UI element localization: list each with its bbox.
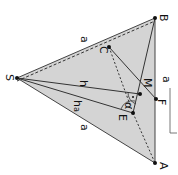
label-ha-subscript: a [72, 107, 81, 112]
label-M: M [141, 78, 154, 88]
angle-alpha-label: α [122, 102, 135, 109]
right-angle-dot [132, 96, 134, 98]
label-ha: h [71, 100, 84, 107]
label-edge-SB: a [78, 36, 91, 43]
label-E: E [116, 114, 129, 121]
pyramid-diagram: α S B A C M F E a a a h h a a [0, 0, 178, 175]
label-B: B [157, 14, 170, 22]
label-edge-SA: a [78, 124, 91, 131]
vertex-B [153, 16, 157, 20]
point-E [131, 111, 135, 115]
label-S: S [3, 74, 16, 81]
label-F: F [155, 99, 168, 105]
label-edge-BA: a [160, 76, 173, 83]
vertex-A [153, 161, 157, 165]
label-h: h [77, 80, 90, 87]
label-C: C [97, 46, 110, 54]
point-M [138, 92, 142, 96]
label-A: A [157, 162, 170, 170]
scale-bar [170, 88, 177, 133]
